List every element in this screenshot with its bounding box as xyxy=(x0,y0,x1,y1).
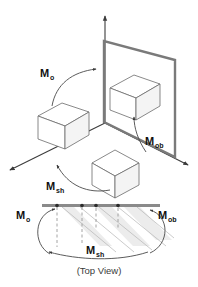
label-base: M xyxy=(145,135,154,147)
transformation-diagram: M o M ob M sh M o M ob M sh xyxy=(0,0,198,287)
arc-m-o xyxy=(52,69,96,106)
label-m-o-top: M o xyxy=(16,209,30,223)
label-m-sh-top: M sh xyxy=(86,244,104,258)
label-base: M xyxy=(46,180,55,192)
label-base: M xyxy=(158,209,167,221)
top-view-scene xyxy=(38,204,174,259)
label-subscript: o xyxy=(26,216,30,223)
sample-dot xyxy=(94,204,98,208)
label-m-ob-upper: M ob xyxy=(145,135,164,149)
label-base: M xyxy=(86,244,95,256)
upper-scene xyxy=(10,16,188,198)
label-subscript: o xyxy=(50,74,54,81)
object-space-cube xyxy=(38,103,89,149)
label-subscript: sh xyxy=(56,187,64,194)
arc-m-o-path xyxy=(52,69,96,106)
sample-dot xyxy=(55,204,59,208)
top-view-caption: (Top View) xyxy=(77,265,122,276)
arc-top-m-o xyxy=(38,209,55,254)
label-base: M xyxy=(16,209,25,221)
label-subscript: sh xyxy=(96,251,104,258)
figure-root: M o M ob M sh M o M ob M sh xyxy=(0,0,198,287)
label-m-o-upper: M o xyxy=(40,67,54,81)
sample-dot xyxy=(80,204,84,208)
world-space-cube xyxy=(110,75,160,120)
label-base: M xyxy=(40,67,49,79)
label-subscript: ob xyxy=(155,142,164,149)
label-subscript: ob xyxy=(168,216,177,223)
label-m-ob-top: M ob xyxy=(158,209,177,223)
sample-dot xyxy=(116,204,120,208)
label-m-sh-upper: M sh xyxy=(46,180,64,194)
